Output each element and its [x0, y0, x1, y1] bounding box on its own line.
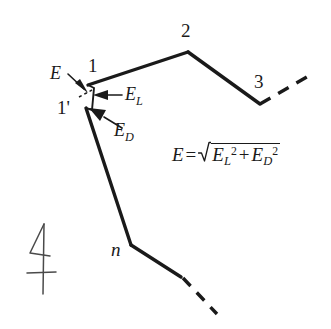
vector-label-ED-subscript: D [125, 130, 134, 144]
segment-n-tail [131, 245, 181, 277]
node-label-1-prime: 1' [57, 98, 70, 117]
vector-label-E-base: E [50, 63, 61, 83]
equation-radicand: EL2+ED2 [211, 143, 280, 167]
vector-E-arrowhead [75, 79, 88, 93]
vector-label-E-L: EL [125, 85, 143, 107]
vector-label-EL-subscript: L [136, 94, 143, 108]
segment-2-to-3 [188, 52, 260, 104]
vector-label-E: E [50, 64, 61, 82]
figure-vector-layer [0, 0, 331, 329]
vector-label-ED-base: E [114, 120, 125, 140]
equation-term2-exponent: 2 [272, 145, 278, 158]
equation-term2-subscript: D [263, 154, 272, 168]
equation-term1-base: E [212, 144, 224, 165]
figure-canvas: 1 1' 2 3 n E EL ED E=EL2+ED2 [0, 0, 331, 329]
vector-EL-arrowhead [93, 90, 108, 100]
segment-3-dashed-continuation [260, 74, 312, 104]
radical-sign-icon [198, 141, 211, 162]
vector-label-EL-base: E [125, 84, 136, 104]
equation-plus: + [239, 144, 250, 165]
segment-n-dashed-continuation [183, 278, 217, 314]
node-label-1: 1 [88, 56, 98, 75]
equation-term1-exponent: 2 [231, 145, 237, 158]
equation-operator: = [186, 144, 197, 165]
node-label-2: 2 [181, 21, 191, 40]
north-arrow-mark [27, 224, 56, 294]
vector-label-E-D: ED [114, 121, 134, 143]
node-label-n: n [111, 240, 121, 259]
equation-E-magnitude: E=EL2+ED2 [172, 142, 280, 167]
equation-lhs: E [172, 144, 184, 165]
vector-ED-arrowhead [89, 108, 106, 121]
equation-radical: EL2+ED2 [198, 142, 280, 167]
equation-term1-subscript: L [224, 154, 231, 168]
node-label-3: 3 [254, 72, 264, 91]
decomposition-box [86, 85, 94, 110]
segment-1-to-2 [88, 52, 188, 85]
equation-term2-base: E [252, 144, 264, 165]
